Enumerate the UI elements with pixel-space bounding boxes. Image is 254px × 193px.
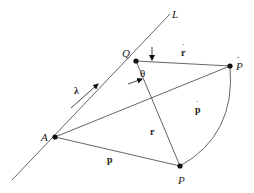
segment-q-phat (136, 61, 230, 66)
label-theta: θ (140, 67, 145, 79)
angle-arrow-left (128, 79, 142, 84)
arc-phat-p (180, 66, 231, 166)
diagram-svg: L Q A P P ˆ λ θ r · p · r p (0, 0, 254, 193)
label-l: L (171, 8, 178, 20)
dot-r-dot: · (182, 40, 185, 49)
label-p-vec: p (107, 154, 113, 165)
label-p: P (177, 174, 185, 186)
label-q: Q (122, 47, 130, 59)
point-p (177, 163, 182, 168)
label-r: r (150, 126, 155, 137)
dot-p-dot: · (196, 97, 199, 106)
segment-a-p (55, 137, 180, 166)
label-lambda: λ (74, 85, 79, 96)
point-q (133, 58, 138, 63)
label-a: A (40, 131, 48, 143)
line-l (12, 14, 170, 180)
point-a (52, 134, 57, 139)
diagram-canvas: L Q A P P ˆ λ θ r · p · r p (0, 0, 254, 193)
point-p-hat (227, 63, 232, 68)
